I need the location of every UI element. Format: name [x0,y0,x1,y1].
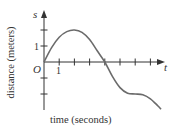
x-tick-label-1: 1 [56,65,61,76]
y-axis-label: distance (meters) [2,12,18,112]
distance-curve [44,30,161,109]
y-tick-label-1: 1 [34,41,39,52]
x-axis-label: time (seconds) [50,114,112,125]
distance-time-chart: s t O 1 1 [0,0,175,131]
x-axis-symbol: t [164,61,168,73]
y-axis-arrow-icon [41,10,47,18]
y-axis-label-text: distance (meters) [5,26,16,98]
y-axis-symbol: s [33,8,37,20]
origin-label: O [33,63,41,75]
